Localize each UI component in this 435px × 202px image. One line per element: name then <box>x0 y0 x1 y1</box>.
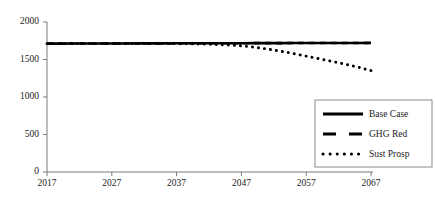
y-axis: 0500100015002000 <box>20 16 47 176</box>
y-axis-tick-label: 500 <box>25 129 40 139</box>
x-axis-tick-label: 2067 <box>362 178 381 188</box>
x-axis-tick-label: 2037 <box>167 178 186 188</box>
x-axis: 201720272037204720572067 <box>38 172 381 188</box>
chart-container: 0500100015002000 20172027203720472057206… <box>0 0 435 202</box>
y-axis-tick-label: 0 <box>34 166 39 176</box>
chart-legend: Base CaseGHG RedSust Prosp <box>315 100 432 167</box>
x-axis-tick-label: 2027 <box>102 178 121 188</box>
legend-label-sust-prosp: Sust Prosp <box>369 149 410 159</box>
legend-label-base-case: Base Case <box>369 109 408 119</box>
y-axis-tick-label: 1000 <box>20 91 39 101</box>
y-axis-tick-label: 2000 <box>20 16 39 26</box>
line-chart: 0500100015002000 20172027203720472057206… <box>0 0 435 202</box>
series-line-sust-prosp <box>47 44 371 71</box>
x-axis-tick-label: 2057 <box>297 178 316 188</box>
data-series-group <box>47 43 371 71</box>
legend-label-ghg-red: GHG Red <box>369 129 408 139</box>
y-axis-tick-label: 1500 <box>20 54 39 64</box>
x-axis-tick-label: 2047 <box>232 178 251 188</box>
x-axis-tick-label: 2017 <box>38 178 57 188</box>
